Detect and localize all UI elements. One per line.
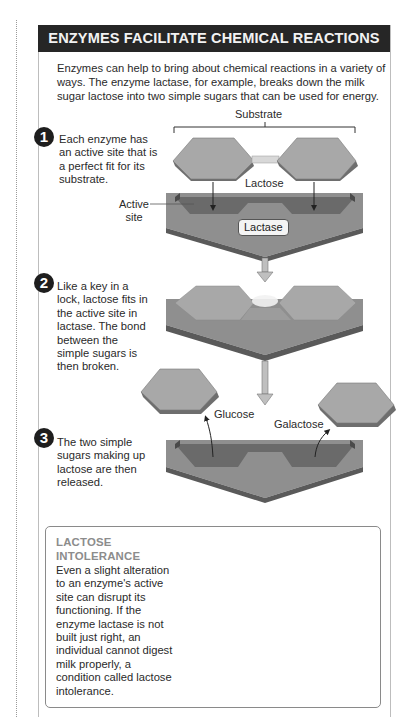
enzyme-substrate-complex bbox=[166, 286, 363, 361]
galactose-molecule bbox=[318, 383, 396, 427]
step-2-badge: 2 bbox=[34, 273, 54, 293]
galactose-label: Galactose bbox=[274, 418, 324, 430]
callout-title: LACTOSE INTOLERANCE bbox=[56, 536, 140, 563]
substrate-label: Substrate bbox=[235, 108, 282, 120]
lactose-molecule bbox=[173, 138, 358, 181]
step-3-badge: 3 bbox=[34, 428, 54, 448]
substrate-bracket bbox=[174, 122, 355, 133]
down-arrow-icon bbox=[257, 258, 273, 282]
glucose-molecule bbox=[141, 369, 219, 414]
active-site-label: Active site bbox=[118, 198, 150, 224]
step-2-text: Like a key in a lock, lactose fits in th… bbox=[57, 280, 149, 374]
step-3-text: The two simple sugars making up lactose … bbox=[57, 436, 147, 490]
down-arrow-icon bbox=[257, 361, 273, 405]
step-1-badge: 1 bbox=[34, 127, 54, 147]
lactase-label: Lactase bbox=[238, 219, 289, 236]
callout-body: Even a slight alteration to an enzyme's … bbox=[56, 564, 174, 698]
lactase-enzyme-3 bbox=[166, 440, 363, 503]
lactose-label: Lactose bbox=[245, 177, 284, 189]
glucose-label: Glucose bbox=[214, 408, 254, 420]
step-1-text: Each enzyme has an active site that is a… bbox=[59, 133, 159, 187]
